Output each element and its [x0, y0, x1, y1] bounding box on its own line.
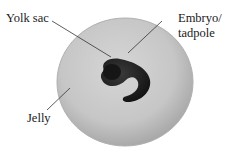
jelly-sphere	[57, 18, 193, 146]
label-embryo-line1: Embryo/	[178, 12, 222, 25]
label-yolk-sac: Yolk sac	[6, 12, 49, 25]
label-jelly: Jelly	[27, 112, 51, 125]
frog-egg-diagram: Yolk sac Embryo/ tadpole Jelly	[0, 0, 234, 155]
label-embryo-line2: tadpole	[178, 27, 215, 40]
